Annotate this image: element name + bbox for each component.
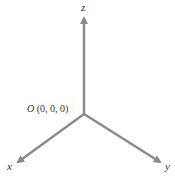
coordinate-diagram: z x y O (0, 0, 0) (0, 0, 175, 178)
x-axis-arrow (18, 114, 84, 162)
y-axis-arrow (84, 114, 160, 162)
x-axis-label: x (6, 160, 12, 172)
origin-coordinates: (0, 0, 0) (34, 103, 68, 115)
z-axis-label: z (80, 1, 86, 13)
y-axis-label: y (164, 160, 170, 172)
origin-label: O (0, 0, 0) (27, 103, 68, 115)
origin-letter: O (27, 103, 34, 114)
axes-figure: z x y O (0, 0, 0) (0, 0, 175, 178)
